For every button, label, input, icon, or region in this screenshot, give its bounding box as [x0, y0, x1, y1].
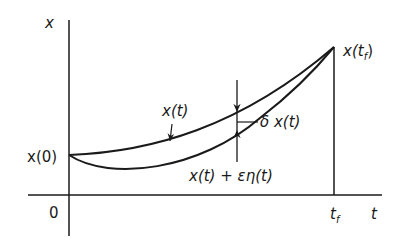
perturbed-curve-label: x(t) + εη(t): [188, 167, 273, 185]
final-time-label: tf: [330, 205, 341, 225]
nominal-curve: [69, 47, 334, 155]
nominal-curve-label: x(t): [161, 102, 188, 120]
final-time-sub: f: [336, 214, 341, 225]
end-point-main: x(t: [342, 42, 365, 60]
origin-label: 0: [49, 204, 59, 222]
horizontal-axis-label: t: [371, 205, 378, 223]
perturbed-curve: [69, 47, 334, 169]
end-point-label: x(tf): [342, 42, 373, 62]
diagram-svg: x 0 x(0) x(tf) x(t) δ x(t) x(t) + εη(t) …: [0, 0, 402, 244]
vertical-axis-label: x: [44, 14, 54, 32]
variation-diagram: x 0 x(0) x(tf) x(t) δ x(t) x(t) + εη(t) …: [0, 0, 402, 244]
start-point-label: x(0): [27, 148, 57, 166]
variation-label: δ x(t): [260, 113, 300, 131]
end-point-close: ): [367, 42, 373, 60]
